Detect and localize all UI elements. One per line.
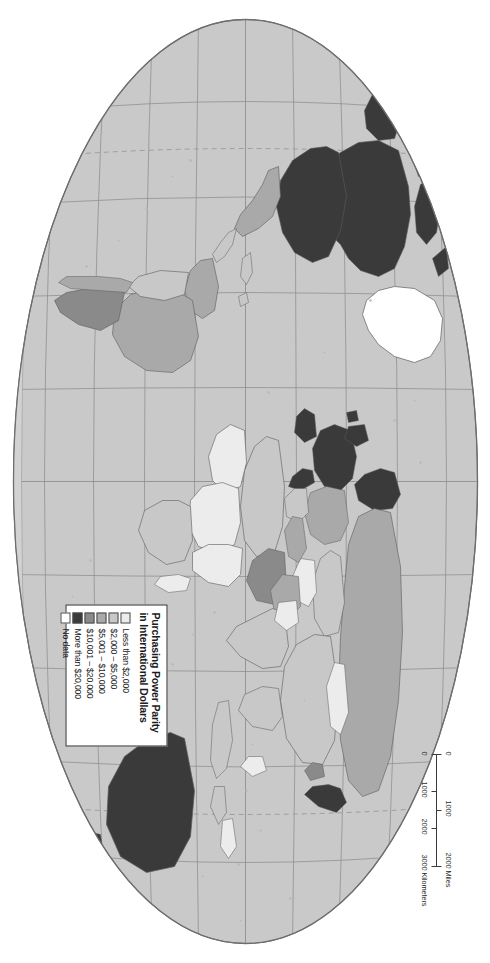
legend-item: More than $20,000 bbox=[71, 612, 82, 739]
legend-item: Less than $2,000 bbox=[119, 612, 130, 739]
legend-entries: Less than $2,000 $2,000 – $5,000 $5,001 … bbox=[59, 612, 130, 739]
scale-units-miles: 2000 Miles bbox=[443, 852, 452, 887]
scale-tick-km-2: 2000 bbox=[419, 818, 428, 834]
scale-tick-km-1: 1000 bbox=[419, 781, 428, 797]
legend-title-line1: Purchasing Power Parity bbox=[149, 612, 161, 739]
legend-item: No data bbox=[59, 612, 70, 739]
legend-swatch bbox=[72, 612, 82, 623]
map-page: Purchasing Power Parity in International… bbox=[0, 0, 490, 963]
region-new-zealand bbox=[86, 886, 140, 920]
legend-swatch bbox=[96, 612, 106, 623]
map-scale-bar: 0 1000 2000 Miles 0 1000 2000 3000 Kilom… bbox=[400, 748, 454, 880]
legend-label: No data bbox=[60, 628, 70, 657]
legend-label: More than $20,000 bbox=[72, 628, 82, 698]
legend-item: $5,001 – $10,000 bbox=[95, 612, 106, 739]
legend-item: $10,001 – $20,000 bbox=[83, 612, 94, 739]
scale-tick-miles-1: 1000 bbox=[443, 800, 452, 816]
legend-label: $5,001 – $10,000 bbox=[96, 628, 106, 693]
legend-swatch bbox=[108, 612, 118, 623]
legend-swatch bbox=[120, 612, 130, 623]
legend-label: $2,000 – $5,000 bbox=[108, 628, 118, 689]
legend-title-line2: in International Dollars bbox=[137, 612, 149, 739]
legend-item: $2,000 – $5,000 bbox=[107, 612, 118, 739]
map-canvas: Purchasing Power Parity in International… bbox=[0, 0, 490, 963]
scale-units-kilometers: 3000 Kilometers bbox=[419, 854, 428, 906]
legend-label: Less than $2,000 bbox=[120, 628, 130, 692]
map-rotation-container: Purchasing Power Parity in International… bbox=[0, 0, 490, 963]
map-legend: Purchasing Power Parity in International… bbox=[65, 604, 167, 746]
legend-swatch bbox=[84, 612, 94, 623]
legend-label: $10,001 – $20,000 bbox=[84, 628, 94, 698]
scale-tick-miles-0: 0 bbox=[443, 751, 452, 755]
legend-swatch bbox=[60, 612, 70, 623]
legend-title: Purchasing Power Parity in International… bbox=[137, 612, 161, 739]
scale-tick-km-0: 0 bbox=[419, 751, 428, 755]
